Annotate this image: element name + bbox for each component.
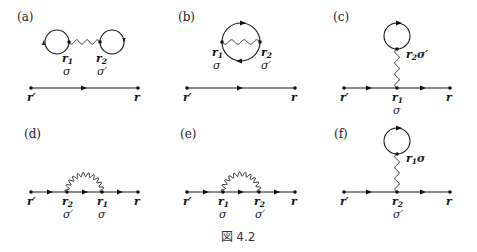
svg-text:r2: r2 [261,46,272,60]
endpoint-dot [448,86,452,90]
endpoint-dot [136,86,140,90]
vertex-dot [67,40,71,44]
panel-b: (b) r1 σ r2 σ′ r′ r [178,10,298,104]
svg-text:σ′: σ′ [97,65,108,78]
svg-text:σ: σ [393,104,401,117]
endpoint-label-end: r [446,195,453,208]
fermion-loop-left [45,30,69,54]
panel-label: (c) [333,10,349,24]
svg-text:r1: r1 [218,195,229,209]
vertex-dot [98,40,102,44]
svg-text:σ: σ [219,208,227,221]
endpoint-dot [136,190,140,194]
propagator-arrow [81,86,87,91]
vertex-dot [395,190,399,194]
interaction-line [221,172,261,192]
propagator-arrow [47,190,53,195]
loop-arrow [396,126,402,131]
endpoint-label-end: r [446,91,453,104]
endpoint-label-start: r′ [183,195,192,208]
svg-text:σ: σ [63,65,71,78]
panel-a: (a) r1 σ r2 σ′ r′ r [17,10,141,104]
endpoint-dot [293,190,297,194]
endpoint-label-start: r′ [183,91,192,104]
panel-c: (c) r2σ′ r′ r1 σ r [333,10,453,117]
vertex-dot [258,40,262,44]
svg-text:r1: r1 [212,46,223,60]
panel-label: (e) [180,127,196,141]
vertex-dot [257,190,261,194]
vertex-dot [395,152,399,156]
loop-arrow-bottom [236,59,242,64]
loop-arrow-top [240,21,246,26]
fermion-loop-right [100,30,124,54]
propagator-arrow [117,190,123,195]
svg-text:r2: r2 [254,195,265,209]
fermion-loop [384,23,410,49]
vertex-dot [220,40,224,44]
svg-text:r1: r1 [62,52,73,66]
vertex-label-r1: r1 σ [392,91,403,117]
propagator-arrow [82,190,88,195]
svg-text:σ: σ [213,59,221,72]
endpoint-label-start: r′ [340,91,349,104]
loop-arrow [123,38,126,43]
endpoint-dot [185,86,189,90]
svg-text:σ′: σ′ [261,59,272,72]
endpoint-dot [185,190,189,194]
vertex-label-r1: r1 σ [212,46,223,72]
vertex-label-r1-sigma: r1σ [406,152,426,166]
interaction-line [395,49,399,88]
endpoint-dot [342,86,346,90]
vertex-label-r2: r2 σ′ [96,52,108,78]
svg-text:r1: r1 [97,195,108,209]
panel-e: (e) r′ r1 σ r2 σ′ r [180,127,298,221]
endpoint-label-end: r [291,195,298,208]
panel-d: (d) r′ r2 σ′ r1 σ r [24,127,141,221]
endpoint-label-end: r [134,91,141,104]
endpoint-dot [29,86,33,90]
interaction-line [69,40,100,44]
svg-text:r2: r2 [62,195,73,209]
endpoint-label-end: r [134,195,141,208]
svg-text:σ′: σ′ [63,208,74,221]
endpoint-dot [448,190,452,194]
vertex-label-r1: r1 σ [218,195,229,221]
interaction-line [395,154,399,192]
svg-text:r2: r2 [96,52,107,66]
endpoint-label-start: r′ [27,195,36,208]
propagator-arrow [366,86,372,91]
propagator-arrow [420,86,426,91]
vertex-dot [395,86,399,90]
fermion-loop [384,128,410,154]
svg-text:σ′: σ′ [255,208,266,221]
vertex-label-r1: r1 σ [97,195,108,221]
panel-label: (f) [334,127,348,141]
panel-label: (a) [17,10,34,24]
vertex-label-r2: r2 σ′ [254,195,266,221]
vertex-dot [221,190,225,194]
propagator-arrow [237,86,243,91]
vertex-dot [65,190,69,194]
feynman-diagram-figure: (a) r1 σ r2 σ′ r′ r (b) r1 σ [0,0,477,252]
panel-f: (f) r1σ r′ r2 σ′ r [334,126,453,222]
panel-label: (d) [24,127,41,141]
vertex-dot [395,47,399,51]
svg-text:r2: r2 [392,195,403,209]
endpoint-dot [342,190,346,194]
panel-label: (b) [178,10,195,24]
propagator-arrow [238,190,244,195]
propagator-arrow [420,190,426,195]
vertex-label-r2: r2 σ′ [261,46,272,72]
vertex-label-r2: r2 σ′ [62,195,74,221]
propagator-arrow [203,190,209,195]
loop-arrow [396,21,402,26]
interaction-line [65,172,104,192]
vertex-dot [100,190,104,194]
interaction-line [222,40,260,44]
vertex-label-r1: r1 σ [62,52,73,78]
svg-text:σ: σ [98,208,106,221]
propagator-arrow [366,190,372,195]
endpoint-label-end: r [291,91,298,104]
figure-caption: 図 4.2 [221,230,256,244]
